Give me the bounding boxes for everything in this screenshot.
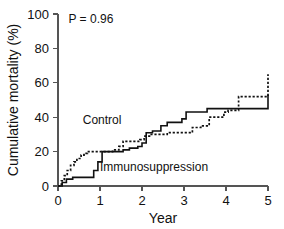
chart-figure: 020406080100 Cumulative mortality (%) 01… bbox=[0, 0, 284, 229]
x-tick-label: 4 bbox=[222, 193, 229, 208]
y-tick-marks bbox=[53, 14, 58, 186]
y-tick-label: 40 bbox=[35, 110, 49, 125]
x-tick-label: 1 bbox=[96, 193, 103, 208]
y-tick-label: 0 bbox=[42, 179, 49, 194]
y-tick-label: 60 bbox=[35, 75, 49, 90]
y-tick-label: 20 bbox=[35, 144, 49, 159]
y-axis: 020406080100 Cumulative mortality (%) bbox=[5, 7, 58, 194]
y-axis-title: Cumulative mortality (%) bbox=[5, 24, 21, 176]
x-tick-label: 0 bbox=[54, 193, 61, 208]
cumulative-mortality-chart: 020406080100 Cumulative mortality (%) 01… bbox=[0, 0, 284, 229]
y-tick-label: 100 bbox=[27, 7, 49, 22]
x-tick-label: 2 bbox=[138, 193, 145, 208]
control-series-label: Control bbox=[83, 113, 122, 127]
y-tick-label: 80 bbox=[35, 41, 49, 56]
y-tick-labels: 020406080100 bbox=[27, 7, 49, 194]
x-tick-label: 5 bbox=[264, 193, 271, 208]
immunosuppression-series-label: Immunosuppression bbox=[100, 160, 208, 174]
p-value-annotation: P = 0.96 bbox=[69, 12, 114, 26]
x-tick-marks bbox=[58, 186, 268, 191]
x-axis: 012345 Year bbox=[54, 186, 271, 226]
x-tick-labels: 012345 bbox=[54, 193, 271, 208]
x-axis-title: Year bbox=[149, 210, 178, 226]
x-tick-label: 3 bbox=[180, 193, 187, 208]
